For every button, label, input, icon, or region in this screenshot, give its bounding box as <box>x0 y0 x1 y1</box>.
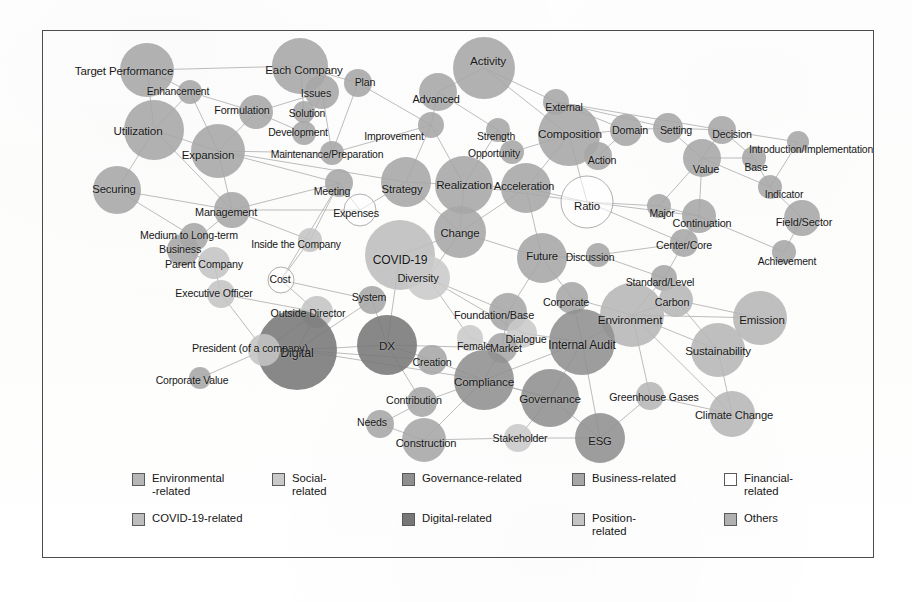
graph-node[interactable] <box>670 229 698 257</box>
graph-node[interactable] <box>610 114 642 146</box>
graph-node[interactable] <box>435 156 493 214</box>
graph-node[interactable] <box>292 121 316 145</box>
graph-node[interactable] <box>298 228 322 252</box>
legend-item-covid[interactable]: COVID-19-related <box>132 512 242 526</box>
legend-item-governance[interactable]: Governance-related <box>402 472 522 486</box>
legend-label-others: Others <box>744 512 778 525</box>
legend-label-digital: Digital-related <box>422 512 492 525</box>
graph-node[interactable] <box>708 116 736 144</box>
graph-node[interactable] <box>344 69 372 97</box>
graph-node[interactable] <box>268 267 294 293</box>
graph-node[interactable] <box>167 234 199 266</box>
legend: Environmental -relatedSocial- relatedGov… <box>132 472 862 544</box>
legend-label-covid: COVID-19-related <box>152 512 242 525</box>
legend-swatch-digital <box>402 513 415 526</box>
legend-swatch-covid <box>132 513 145 526</box>
legend-item-financial[interactable]: Financial- related <box>724 472 793 499</box>
graph-node[interactable] <box>742 146 766 170</box>
graph-node[interactable] <box>320 141 344 165</box>
legend-item-others[interactable]: Others <box>724 512 778 526</box>
graph-node[interactable] <box>214 192 250 228</box>
graph-node[interactable] <box>407 387 437 417</box>
graph-node[interactable] <box>500 140 524 164</box>
graph-node[interactable] <box>683 139 721 177</box>
graph-node[interactable] <box>647 194 671 218</box>
legend-label-business: Business-related <box>592 472 676 485</box>
graph-node[interactable] <box>586 243 610 267</box>
legend-swatch-financial <box>724 473 737 486</box>
legend-swatch-environmental <box>132 473 145 486</box>
graph-node[interactable] <box>434 206 486 258</box>
graph-node[interactable] <box>787 131 809 153</box>
graph-node[interactable] <box>344 194 376 226</box>
graph-node[interactable] <box>549 309 615 375</box>
legend-item-digital[interactable]: Digital-related <box>402 512 492 526</box>
legend-swatch-governance <box>402 473 415 486</box>
graph-node[interactable] <box>293 101 315 123</box>
graph-node[interactable] <box>418 112 444 138</box>
graph-node[interactable] <box>772 240 796 264</box>
graph-node[interactable] <box>419 73 457 111</box>
graph-edge <box>332 125 431 153</box>
legend-item-environmental[interactable]: Environmental -related <box>132 472 224 499</box>
legend-swatch-others <box>724 513 737 526</box>
graph-node[interactable] <box>402 418 446 462</box>
graph-node[interactable] <box>575 413 625 463</box>
graph-node[interactable] <box>504 424 532 452</box>
graph-node[interactable] <box>191 124 245 178</box>
graph-node[interactable] <box>454 350 514 410</box>
graph-node[interactable] <box>691 323 745 377</box>
node-layer <box>93 37 820 463</box>
legend-swatch-social <box>272 473 285 486</box>
graph-edge <box>218 151 406 182</box>
graph-node[interactable] <box>178 80 202 104</box>
graph-node[interactable] <box>682 199 716 233</box>
graph-node[interactable] <box>325 169 353 197</box>
graph-node[interactable] <box>457 325 483 351</box>
legend-label-governance: Governance-related <box>422 472 522 485</box>
graph-node[interactable] <box>758 175 782 199</box>
graph-node[interactable] <box>189 367 211 389</box>
graph-node[interactable] <box>653 113 683 143</box>
graph-node[interactable] <box>239 95 273 129</box>
graph-node[interactable] <box>124 100 184 160</box>
graph-node[interactable] <box>784 200 820 236</box>
legend-item-social[interactable]: Social- related <box>272 472 327 499</box>
legend-swatch-business <box>572 473 585 486</box>
graph-node[interactable] <box>120 43 174 97</box>
graph-node[interactable] <box>198 247 230 279</box>
legend-item-business[interactable]: Business-related <box>572 472 676 486</box>
legend-label-position: Position- related <box>592 512 636 539</box>
figure-page: Target PerformanceEach CompanyPlanActivi… <box>0 0 912 602</box>
graph-node[interactable] <box>709 391 755 437</box>
legend-label-financial: Financial- related <box>744 472 793 499</box>
graph-node[interactable] <box>561 176 613 228</box>
graph-node[interactable] <box>584 142 612 170</box>
legend-label-environmental: Environmental -related <box>152 472 224 499</box>
graph-node[interactable] <box>501 163 551 213</box>
graph-node[interactable] <box>381 157 431 207</box>
graph-node[interactable] <box>453 37 515 99</box>
legend-label-social: Social- related <box>292 472 327 499</box>
graph-node[interactable] <box>636 382 664 410</box>
graph-node[interactable] <box>207 280 235 308</box>
graph-node[interactable] <box>93 166 141 214</box>
graph-node[interactable] <box>357 315 417 375</box>
graph-node[interactable] <box>406 256 450 300</box>
graph-node[interactable] <box>248 334 280 366</box>
graph-node[interactable] <box>659 283 693 317</box>
legend-swatch-position <box>572 513 585 526</box>
graph-node[interactable] <box>366 410 394 438</box>
graph-node[interactable] <box>486 118 510 142</box>
graph-node[interactable] <box>521 369 579 427</box>
graph-node[interactable] <box>358 286 386 314</box>
graph-node[interactable] <box>517 233 567 283</box>
legend-item-position[interactable]: Position- related <box>572 512 636 539</box>
graph-node[interactable] <box>417 345 447 375</box>
